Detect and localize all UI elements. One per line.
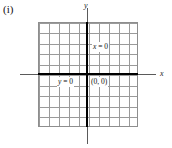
x-axis-label: x [160,70,164,78]
y-axis-label: y [84,2,88,10]
origin-point-label: (0, 0) [90,77,108,87]
vertical-line-equation-value: = 0 [96,42,108,51]
figure-container: (i) y x x = 0 y = 0 (0, 0) [0,0,172,148]
horizontal-line-equation-value: = 0 [61,77,73,86]
vertical-line-equation-label: x = 0 [92,42,109,52]
x-axis-line [38,73,138,75]
y-axis-line [86,22,88,127]
part-label: (i) [3,4,13,15]
horizontal-line-equation-label: y = 0 [57,77,74,87]
